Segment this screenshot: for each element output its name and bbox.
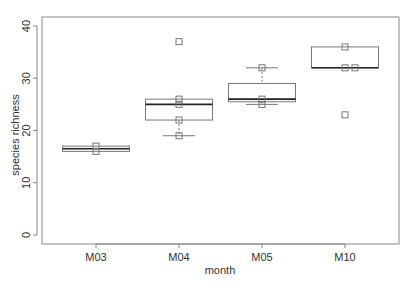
y-tick-label: 20: [20, 124, 32, 136]
y-tick-label: 10: [20, 177, 32, 189]
x-axis: M03M04M05M10: [85, 244, 355, 263]
outlier-point: [176, 39, 182, 45]
y-axis-label: species richness: [9, 94, 21, 176]
plot-frame: [42, 17, 399, 244]
boxes: [63, 39, 379, 155]
box-m04: [146, 39, 213, 139]
outlier-point: [342, 112, 348, 118]
y-tick-label: 30: [20, 72, 32, 84]
box-plot-chart: 010203040 M03M04M05M10 month species ric…: [0, 0, 412, 289]
x-tick-label: M04: [168, 251, 189, 263]
x-tick-label: M10: [334, 251, 355, 263]
box-m05: [229, 65, 296, 108]
x-tick-label: M05: [251, 251, 272, 263]
x-tick-label: M03: [85, 251, 106, 263]
y-tick-label: 0: [20, 232, 32, 238]
box-m03: [63, 143, 130, 154]
x-axis-label: month: [205, 264, 236, 276]
box-m10: [312, 44, 379, 118]
y-tick-label: 40: [20, 20, 32, 32]
y-axis: 010203040: [20, 20, 37, 238]
